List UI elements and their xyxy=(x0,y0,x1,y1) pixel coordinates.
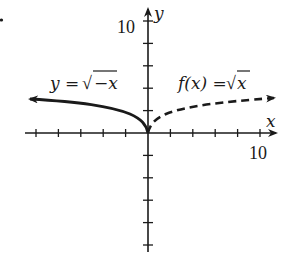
left-curve-label: y = √ −x xyxy=(49,71,118,93)
stray-mark xyxy=(0,18,3,21)
svg-text:√: √ xyxy=(82,73,92,93)
curve-sqrt-x xyxy=(148,98,274,133)
svg-text:f(x) =: f(x) = xyxy=(176,73,227,93)
x-axis-label: x xyxy=(266,111,276,131)
svg-text:√: √ xyxy=(226,73,236,93)
svg-text:x: x xyxy=(237,73,247,93)
function-graph: x y 10 10 y = √ −x f(x) = √ x xyxy=(0,0,293,268)
svg-text:−x: −x xyxy=(94,73,118,93)
svg-text:y =: y = xyxy=(49,73,79,93)
y-tick-label-10: 10 xyxy=(117,17,135,37)
right-curve-label: f(x) = √ x xyxy=(176,71,250,93)
y-axis-label: y xyxy=(153,3,164,23)
curve-sqrt-neg-x xyxy=(30,99,148,133)
x-tick-label-10: 10 xyxy=(249,143,267,163)
